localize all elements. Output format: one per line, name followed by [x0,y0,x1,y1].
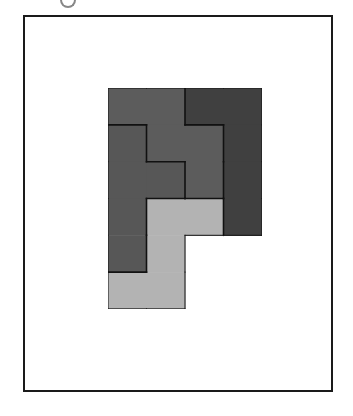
piece-cell [147,235,186,272]
piece-cell [108,199,147,236]
piece-cell [224,199,263,236]
puzzle-board [108,88,262,309]
piece-cell [147,272,186,309]
piece-cell [224,125,263,162]
piece-cell [185,88,224,125]
piece-cell [147,88,186,125]
piece-cell [108,88,147,125]
piece-cell [147,125,186,162]
piece-cell [147,162,186,199]
piece-cell [108,272,147,309]
piece-cell [108,162,147,199]
piece-cell [224,162,263,199]
piece-cell [185,199,224,236]
piece-cell [108,125,147,162]
piece-cell [185,125,224,162]
piece-cell [185,162,224,199]
cropped-text-fragment [60,0,76,8]
piece-cell [108,235,147,272]
board-canvas [108,88,262,309]
piece-cell [224,88,263,125]
piece-cell [147,199,186,236]
